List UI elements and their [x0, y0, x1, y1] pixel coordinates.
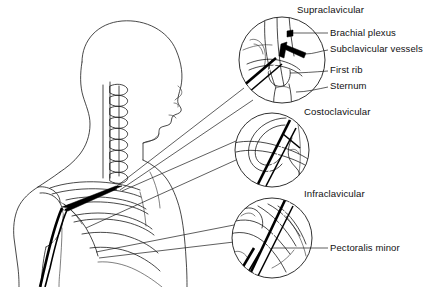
- deltoid-outline: [14, 187, 38, 287]
- inset-infraclavicular: [229, 198, 312, 284]
- leader-to-infraclavicular-b: [99, 242, 234, 258]
- brachial-plexus-inset-1: [287, 30, 293, 37]
- nose-detail: [174, 103, 178, 107]
- arm-vessel-outer: [40, 208, 62, 287]
- scapula-border: [64, 204, 98, 256]
- neck-back-contour: [60, 62, 90, 172]
- leader-to-infraclavicular-a: [96, 225, 234, 252]
- leader-to-costoclavicular-a: [122, 141, 236, 191]
- callout-label-pectoralis-minor: Pectoralis minor: [330, 243, 400, 253]
- humerus-shaft-inner: [59, 228, 62, 287]
- leader-to-supraclavicular-b: [120, 100, 253, 190]
- inset-title-infraclavicular: Infraclavicular: [304, 189, 365, 199]
- rib-2-lower: [74, 219, 154, 235]
- acromion: [38, 187, 60, 202]
- inset-title-costoclavicular: Costoclavicular: [304, 107, 371, 117]
- leader-to-supraclavicular-a: [117, 88, 244, 186]
- trapezius-contour: [38, 172, 60, 187]
- cervical-spine: [103, 82, 128, 183]
- inset-title-supraclavicular: Supraclavicular: [297, 5, 364, 15]
- callout-label-subclavicular-vessels: Subclavicular vessels: [330, 44, 423, 54]
- rib-5: [98, 262, 162, 287]
- inset-supraclavicular: [236, 16, 325, 108]
- anatomy-figure: Supraclavicular Brachial plexus Subclavi…: [0, 0, 436, 287]
- inset-costoclavicular: [234, 113, 310, 190]
- subclavian-vessel-main: [63, 188, 117, 211]
- main-body-figure: [14, 21, 187, 287]
- callout-label-brachial-plexus: Brachial plexus: [330, 28, 396, 38]
- callout-label-first-rib: First rib: [330, 65, 363, 75]
- chest-front-contour: [150, 172, 160, 208]
- callout-label-sternum: Sternum: [330, 81, 367, 91]
- leader-to-costoclavicular-b: [86, 160, 236, 228]
- head-outline: [82, 21, 182, 160]
